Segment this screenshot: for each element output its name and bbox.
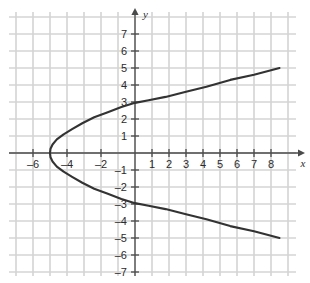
y-tick-label: 1 xyxy=(121,130,127,142)
y-tick-label: 2 xyxy=(121,113,127,125)
y-tick-label: 4 xyxy=(121,79,127,91)
x-tick-label: 6 xyxy=(234,158,240,170)
y-tick-label: –6 xyxy=(115,249,127,261)
x-tick-label: 5 xyxy=(217,158,223,170)
x-tick-label: –4 xyxy=(61,158,73,170)
y-tick-label: –1 xyxy=(115,164,127,176)
coordinate-graph: –6–4–2123456787654321–1–2–3–4–5–6–7 xy xyxy=(0,0,310,283)
y-tick-label: –7 xyxy=(115,266,127,278)
y-tick-label: 5 xyxy=(121,62,127,74)
axis-names: xy xyxy=(142,8,306,169)
y-tick-label: 7 xyxy=(121,28,127,40)
graph-svg: –6–4–2123456787654321–1–2–3–4–5–6–7 xy xyxy=(0,0,310,283)
x-tick-label: 8 xyxy=(268,158,274,170)
x-tick-label: –2 xyxy=(95,158,107,170)
x-tick-label: 7 xyxy=(251,158,257,170)
y-tick-label: –4 xyxy=(115,215,127,227)
x-tick-label: 3 xyxy=(183,158,189,170)
x-axis-arrow xyxy=(298,149,305,156)
x-tick-label: 2 xyxy=(166,158,172,170)
y-axis-arrow xyxy=(131,8,138,15)
y-axis-label: y xyxy=(142,8,148,20)
y-tick-label: 6 xyxy=(121,45,127,57)
y-tick-label: –2 xyxy=(115,181,127,193)
y-tick-label: –5 xyxy=(115,232,127,244)
x-tick-label: –6 xyxy=(27,158,39,170)
x-tick-label: 1 xyxy=(149,158,155,170)
x-axis-label: x xyxy=(300,157,306,169)
x-tick-label: 4 xyxy=(200,158,206,170)
